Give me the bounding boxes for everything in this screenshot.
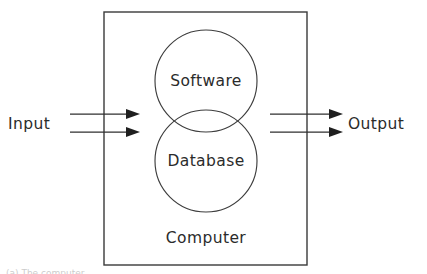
cropped-caption-sliver: (a) The computer bbox=[6, 269, 92, 274]
computer-boundary-box bbox=[104, 12, 307, 265]
diagram-canvas: Software Database Computer Input Output … bbox=[0, 0, 427, 274]
computer-label: Computer bbox=[166, 229, 246, 247]
output-label: Output bbox=[348, 115, 404, 133]
software-label: Software bbox=[170, 72, 242, 90]
computer-block-diagram: Software Database Computer Input Output bbox=[0, 0, 427, 274]
input-label: Input bbox=[8, 115, 50, 133]
database-label: Database bbox=[167, 152, 244, 170]
input-arrow-group bbox=[70, 109, 140, 137]
output-arrowhead bbox=[329, 127, 343, 137]
output-arrowhead bbox=[329, 109, 343, 119]
input-arrowhead bbox=[126, 127, 140, 137]
input-arrowhead bbox=[126, 109, 140, 119]
